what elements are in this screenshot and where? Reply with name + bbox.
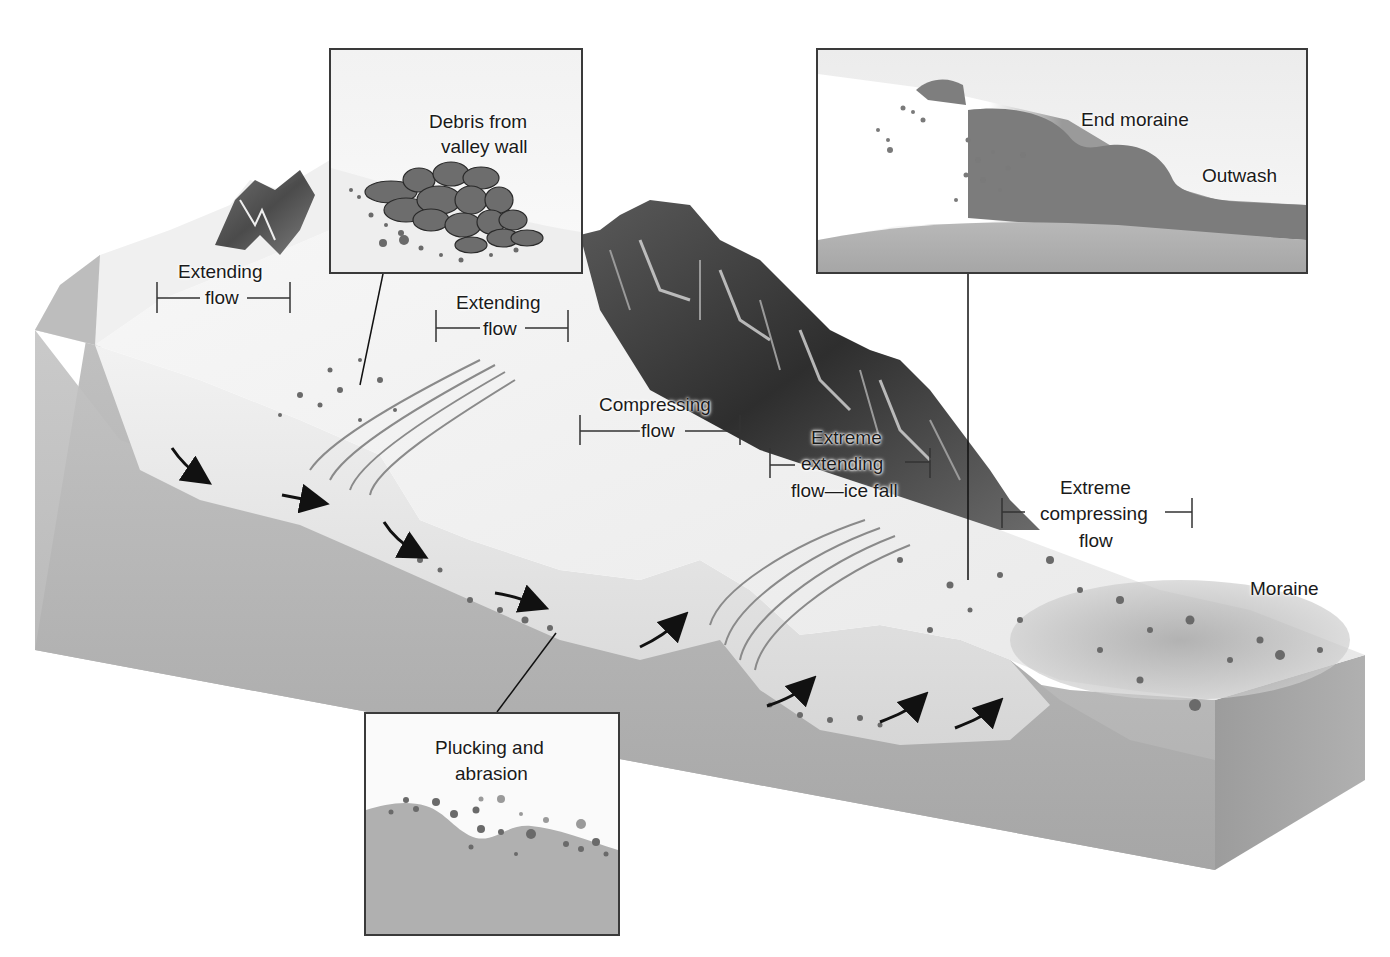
extending-flow-1-line2: flow — [205, 287, 239, 309]
glacier-diagram: Debris from valley wall — [0, 0, 1390, 957]
compressing-flow-line2: flow — [641, 420, 675, 442]
extreme-compressing-flow-line1: Extreme — [1060, 477, 1131, 499]
extreme-compressing-flow-line2: compressing — [1040, 503, 1148, 525]
inset-debris-valley-wall: Debris from valley wall — [329, 48, 583, 274]
extending-flow-1-line1: Extending — [178, 261, 263, 283]
end-moraine-illustration — [818, 50, 1306, 272]
inset-plucking-abrasion: Plucking and abrasion — [364, 712, 620, 936]
inset-end-moraine: End moraine Outwash — [816, 48, 1308, 274]
debris-label-line2: valley wall — [441, 136, 528, 158]
extreme-compressing-flow-line3: flow — [1079, 530, 1113, 552]
extending-flow-2-line2: flow — [483, 318, 517, 340]
debris-pile-illustration — [331, 50, 581, 272]
plucking-label-line2: abrasion — [455, 763, 528, 785]
outwash-label: Outwash — [1202, 165, 1277, 187]
debris-label-line1: Debris from — [429, 111, 527, 133]
end-moraine-label: End moraine — [1081, 109, 1189, 131]
extreme-extending-flow-line3: flow—ice fall — [791, 480, 898, 502]
extending-flow-2-line1: Extending — [456, 292, 541, 314]
plucking-label-line1: Plucking and — [435, 737, 544, 759]
compressing-flow-line1: Compressing — [599, 394, 711, 416]
extreme-extending-flow-line1: Extreme — [811, 427, 882, 449]
moraine-label: Moraine — [1250, 578, 1319, 600]
extreme-extending-flow-line2: extending — [801, 453, 883, 475]
